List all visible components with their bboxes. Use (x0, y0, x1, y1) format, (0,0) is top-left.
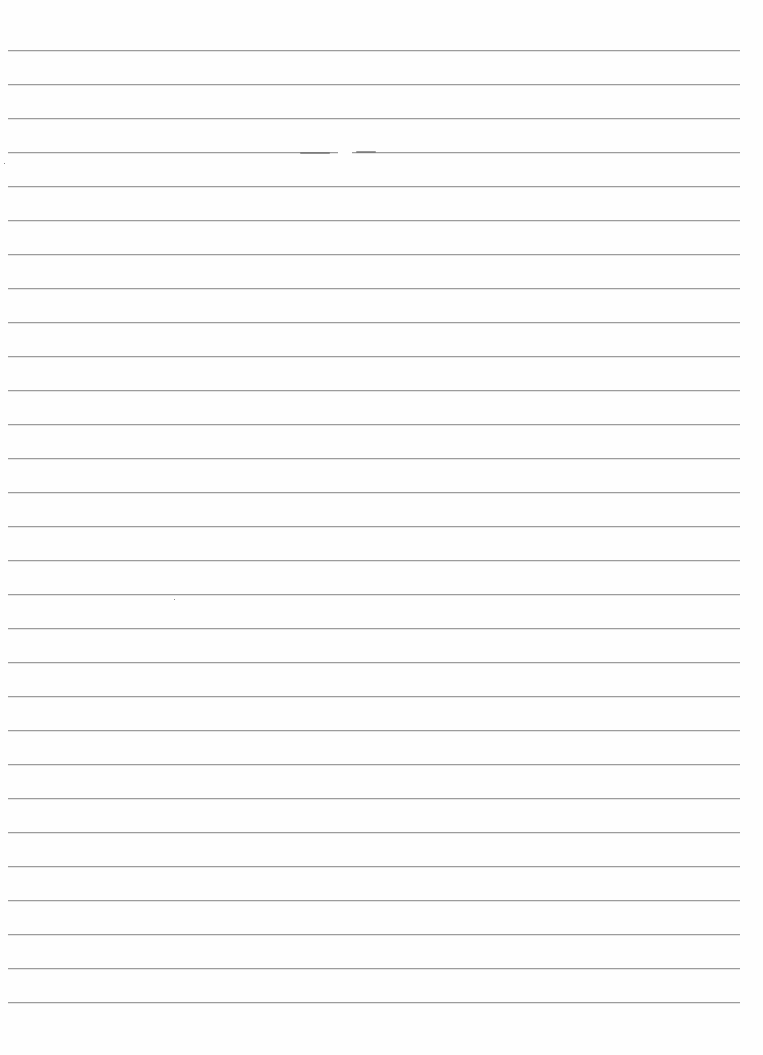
ruled-line (8, 220, 740, 221)
ruled-line (8, 866, 740, 867)
ruled-line (8, 628, 740, 629)
scan-speck (174, 599, 175, 600)
ruled-line (8, 900, 740, 901)
ruled-line (8, 390, 740, 391)
ruled-line (8, 934, 740, 935)
scan-smudge (300, 152, 330, 154)
ruled-line (8, 968, 740, 969)
ruled-line (8, 186, 740, 187)
ruled-line (8, 832, 740, 833)
ruled-line (8, 798, 740, 799)
ruled-line (8, 1002, 740, 1003)
ruled-line (8, 662, 740, 663)
ruled-line (8, 458, 740, 459)
ruled-line (8, 322, 740, 323)
scan-smudge (356, 151, 376, 153)
ruled-line (8, 84, 740, 85)
ruled-line (8, 730, 740, 731)
ruled-line (8, 492, 740, 493)
ruled-line (8, 526, 740, 527)
ruled-line (8, 254, 740, 255)
ruled-line (8, 288, 740, 289)
ruled-line (8, 424, 740, 425)
ruled-line (8, 764, 740, 765)
ruled-line (8, 118, 740, 119)
ruled-line (8, 356, 740, 357)
scan-speck (4, 163, 5, 164)
rule-break (338, 151, 352, 154)
ruled-line (8, 560, 740, 561)
ruled-line (8, 594, 740, 595)
lined-paper-sheet (0, 0, 763, 1055)
ruled-line (8, 50, 740, 51)
ruled-line (8, 696, 740, 697)
